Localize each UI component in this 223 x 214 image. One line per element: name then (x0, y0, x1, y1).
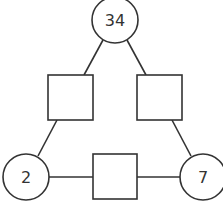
circle-bottom-right-value: 7 (198, 168, 208, 187)
circle-bottom-left-value: 2 (21, 168, 31, 187)
answer-box-bottom[interactable] (93, 154, 137, 199)
edge-right-bottomright (172, 120, 191, 156)
edge-top-right (127, 40, 146, 75)
answer-box-left[interactable] (48, 75, 93, 120)
circle-top-value: 34 (105, 11, 125, 30)
edge-top-left (84, 40, 103, 75)
edge-left-bottomleft (38, 120, 57, 156)
arithmagon-diagram: 34 2 7 (0, 0, 223, 214)
answer-box-right[interactable] (137, 75, 182, 120)
